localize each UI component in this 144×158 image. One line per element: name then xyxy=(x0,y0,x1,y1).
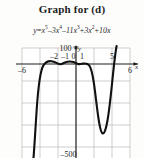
equation-term-3: 3x2 xyxy=(84,26,94,35)
y-tick-label-100: 100 xyxy=(60,44,72,53)
x-tick-label-one: 1 xyxy=(80,52,84,61)
x-tick-label-six: 6 xyxy=(128,66,132,75)
graph-svg: –6 –2 –1 0 1 5 6 100 –500 x y xyxy=(0,40,144,158)
equation-term-2: 11x3 xyxy=(66,26,80,35)
figure-panel: Graph for (d) y=x5–3x4–11x3+3x2+10x xyxy=(0,0,144,158)
y-tick-label-minus500: –500 xyxy=(60,150,77,158)
x-tick-label-zero: 0 xyxy=(72,52,76,61)
equation-term-4: 10x xyxy=(99,26,111,35)
x-tick-label-five: 5 xyxy=(110,52,114,61)
equation-term-1: 3x4 xyxy=(52,26,62,35)
plot-area: –6 –2 –1 0 1 5 6 100 –500 x y xyxy=(0,40,144,158)
x-axis-label: x xyxy=(134,63,139,71)
x-tick-label-minus2: –2 xyxy=(49,52,58,61)
figure-caption: Graph for (d) xyxy=(0,3,144,15)
x-tick-label-minus6: –6 xyxy=(17,66,26,75)
function-equation: y=x5–3x4–11x3+3x2+10x xyxy=(0,24,144,35)
x-tick-label-minus1: –1 xyxy=(60,52,69,61)
